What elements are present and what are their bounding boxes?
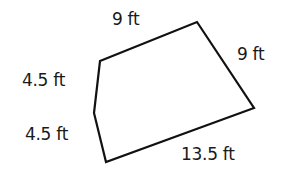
label-left-upper-side: 4.5 ft <box>22 72 65 89</box>
label-right-side: 9 ft <box>237 46 264 63</box>
pentagon-outline <box>94 22 254 162</box>
label-bottom-side: 13.5 ft <box>181 146 235 163</box>
label-left-lower-side: 4.5 ft <box>25 126 68 143</box>
label-top-side: 9 ft <box>112 11 139 28</box>
diagram-canvas: 9 ft 9 ft 4.5 ft 4.5 ft 13.5 ft <box>0 0 289 175</box>
